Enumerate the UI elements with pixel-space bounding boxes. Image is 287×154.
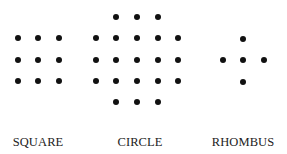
dot	[113, 57, 119, 63]
dot	[155, 99, 161, 105]
dot	[240, 57, 246, 63]
dot	[261, 57, 267, 63]
dot	[155, 78, 161, 84]
label-circle: CIRCLE	[117, 135, 162, 150]
dot	[220, 57, 226, 63]
dot	[15, 57, 21, 63]
dot	[56, 78, 62, 84]
dot	[113, 14, 119, 20]
dot	[175, 35, 181, 41]
dot	[240, 36, 246, 42]
dot	[134, 14, 140, 20]
dot	[35, 57, 41, 63]
dot	[35, 35, 41, 41]
dot	[93, 57, 99, 63]
dot	[93, 35, 99, 41]
dot	[35, 78, 41, 84]
dot	[93, 78, 99, 84]
dot	[15, 35, 21, 41]
dot	[113, 99, 119, 105]
dot	[155, 35, 161, 41]
label-square: SQUARE	[13, 135, 64, 150]
dot	[240, 79, 246, 85]
dot	[15, 78, 21, 84]
dot	[134, 57, 140, 63]
dot	[56, 35, 62, 41]
dot	[155, 57, 161, 63]
label-rhombus: RHOMBUS	[212, 135, 275, 150]
dot	[155, 14, 161, 20]
dot	[134, 35, 140, 41]
dot	[175, 57, 181, 63]
dot	[175, 78, 181, 84]
dot	[113, 35, 119, 41]
dot	[134, 78, 140, 84]
dot	[134, 99, 140, 105]
dot	[56, 57, 62, 63]
dot	[113, 78, 119, 84]
